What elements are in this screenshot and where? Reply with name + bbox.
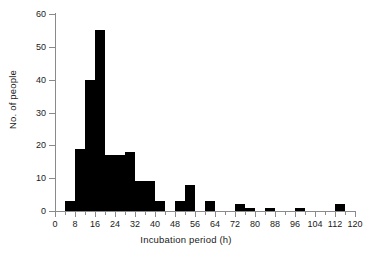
histogram-bar [85, 80, 95, 211]
x-axis-tick-label: 64 [210, 219, 220, 229]
y-axis-title: No. of people [7, 50, 18, 150]
histogram-chart: 0102030405060 08162432404856647280889610… [0, 0, 372, 256]
histogram-bar [65, 201, 75, 211]
x-axis-minor-tick [185, 212, 186, 215]
x-axis-tick [215, 212, 216, 217]
histogram-bar [335, 204, 345, 211]
x-axis-tick-label: 24 [110, 219, 120, 229]
x-axis-tick-label: 104 [307, 219, 322, 229]
x-axis-tick-label: 88 [270, 219, 280, 229]
x-axis-tick-label: 32 [130, 219, 140, 229]
histogram-bar [155, 201, 165, 211]
histogram-bar [245, 208, 255, 211]
x-axis-minor-tick [145, 212, 146, 215]
histogram-bar [295, 208, 305, 211]
x-axis-tick [355, 212, 356, 217]
x-axis-tick [195, 212, 196, 217]
x-axis-tick [135, 212, 136, 217]
x-axis-tick-label: 48 [170, 219, 180, 229]
x-axis-tick [75, 212, 76, 217]
x-axis-tick [155, 212, 156, 217]
x-axis-minor-tick [65, 212, 66, 215]
x-axis-tick-label: 72 [230, 219, 240, 229]
x-axis-tick [335, 212, 336, 217]
x-axis-minor-tick [125, 212, 126, 215]
x-axis-tick [115, 212, 116, 217]
histogram-bar [125, 152, 135, 211]
x-axis-minor-tick [165, 212, 166, 215]
x-axis-minor-tick [205, 212, 206, 215]
y-axis-tick-label: 60 [6, 10, 46, 19]
histogram-bar [185, 185, 195, 211]
x-axis-tick-label: 96 [290, 219, 300, 229]
x-axis-tick [315, 212, 316, 217]
x-axis-tick-label: 8 [72, 219, 77, 229]
y-axis-tick-label: 0 [6, 207, 46, 216]
x-axis-tick [175, 212, 176, 217]
x-axis-minor-tick [305, 212, 306, 215]
histogram-bar [205, 201, 215, 211]
x-axis-tick-label: 16 [90, 219, 100, 229]
x-axis-title: Incubation period (h) [0, 234, 372, 245]
x-axis-minor-tick [265, 212, 266, 215]
x-axis-tick-label: 40 [150, 219, 160, 229]
x-axis-tick [95, 212, 96, 217]
x-axis-tick-label: 56 [190, 219, 200, 229]
x-axis-minor-tick [225, 212, 226, 215]
histogram-bar [145, 181, 155, 211]
x-axis-tick-label: 0 [52, 219, 57, 229]
x-axis-tick [295, 212, 296, 217]
x-axis-minor-tick [345, 212, 346, 215]
histogram-bar [175, 201, 185, 211]
x-axis-tick [255, 212, 256, 217]
plot-area [55, 14, 355, 211]
histogram-bar [105, 155, 115, 211]
x-axis-minor-tick [245, 212, 246, 215]
x-axis-minor-tick [105, 212, 106, 215]
x-axis-tick [275, 212, 276, 217]
histogram-bar [115, 155, 125, 211]
x-axis-minor-tick [325, 212, 326, 215]
histogram-bar [265, 208, 275, 211]
x-axis-tick [235, 212, 236, 217]
x-axis-minor-tick [285, 212, 286, 215]
x-axis-tick-label: 80 [250, 219, 260, 229]
x-axis-tick-label: 120 [347, 219, 362, 229]
x-axis-tick [55, 212, 56, 217]
x-axis-minor-tick [85, 212, 86, 215]
x-axis-tick-label: 112 [328, 219, 342, 229]
histogram-bar [135, 181, 145, 211]
histogram-bar [95, 30, 105, 211]
y-axis-tick-label: 10 [6, 174, 46, 183]
histogram-bar [75, 149, 85, 211]
histogram-bar [235, 204, 245, 211]
